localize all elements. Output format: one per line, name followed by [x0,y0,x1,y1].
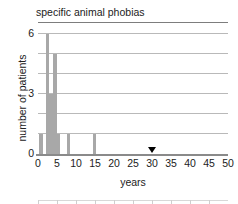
gridline [38,113,228,114]
y-tick-label: 6 [2,28,34,39]
ghost-tick [152,200,153,204]
bar [67,134,70,154]
ghost-tick [190,200,191,204]
ghost-tick [114,200,115,204]
ghost-tick [133,200,134,204]
y-axis-ticks: 036 [0,22,34,154]
gridline [38,93,228,94]
x-axis-ticks: 05101520253035404550 [38,157,228,171]
ghost-tick [57,200,58,204]
plot-top-rule [38,22,228,23]
clipped-next-figure [38,196,228,204]
chart-figure: specific animal phobias number of patien… [0,0,238,204]
gridline [38,73,228,74]
bar [39,134,42,154]
bar [57,134,60,154]
gridline [38,33,228,34]
x-axis-line [36,154,228,156]
ghost-tick [209,200,210,204]
plot-area [38,22,228,154]
ghost-tick [171,200,172,204]
y-tick-label: 3 [2,88,34,99]
chart-title: specific animal phobias [36,6,145,18]
ghost-tick [38,200,39,204]
gridline [38,53,228,54]
marker-triangle-icon [148,147,156,153]
ghost-tick [76,200,77,204]
ghost-tick [95,200,96,204]
x-axis-label: years [38,176,228,188]
bar [93,134,96,154]
x-tick-label: 50 [216,157,238,169]
